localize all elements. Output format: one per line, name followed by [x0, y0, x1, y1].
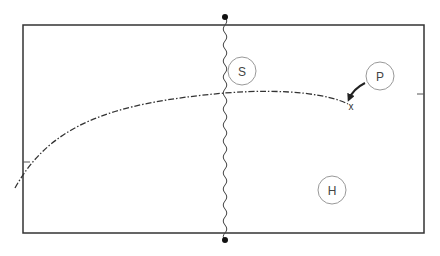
player-s: S: [228, 57, 256, 85]
court-boundary: [23, 25, 424, 233]
player-h: H: [318, 176, 346, 204]
target-marker: x: [349, 101, 354, 112]
player-p: P: [366, 62, 394, 90]
net-line: [223, 17, 227, 240]
net-post-bottom: [222, 237, 228, 243]
movement-arrow: [349, 83, 365, 99]
player-h-label: H: [328, 184, 337, 198]
player-s-label: S: [238, 65, 246, 79]
court-diagram: x S P H: [0, 0, 440, 256]
net-post-top: [222, 14, 228, 20]
ball-trajectory: [15, 91, 348, 188]
player-p-label: P: [376, 70, 384, 84]
